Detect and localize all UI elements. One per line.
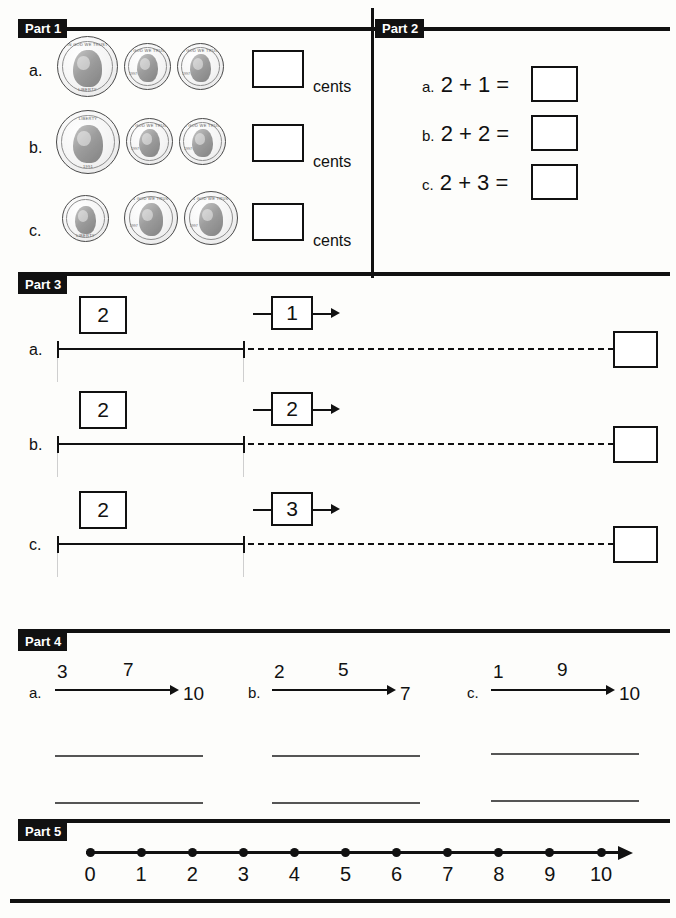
part3-item-a-answer-box[interactable] [613,331,658,368]
part3-item-c-start-box[interactable]: 2 [79,491,127,529]
part2-item-b-expression: b. 2 + 2 = [422,121,509,147]
part3-item-b-tick-mid [243,436,245,453]
divider-part1-part2 [371,8,374,278]
part4-item-b-letter: b. [248,684,261,701]
part4-item-c-answer-line-2[interactable] [491,800,639,802]
part1-item-b-unit-label: cents [313,153,351,171]
part1-item-c-letter: c. [29,222,41,240]
coin-year: 1997 [190,224,198,228]
rule-part3 [18,272,670,276]
part1-item-c-answer-box[interactable] [252,203,304,241]
part1-item-a-unit-label: cents [313,78,351,96]
part2-item-a-equation: 2 + 1 = [441,72,510,97]
coin-year: 1997 [131,147,139,151]
part4-item-b-change: 5 [338,659,349,681]
part5-number-line-arrowhead [618,846,633,860]
part4-item-c-start: 1 [493,661,504,683]
part4-item-a-change: 7 [123,659,134,681]
part2-item-b-answer-box[interactable] [531,115,578,151]
part5-dot [392,848,401,857]
part2-item-c-letter: c. [422,176,434,193]
part3-item-a-start-box[interactable]: 2 [79,296,127,334]
part5-dot [545,848,554,857]
part5-label: 3 [238,863,249,886]
part1-item-b-answer-box[interactable] [252,124,304,162]
part5-dot [597,848,606,857]
part3-item-b-connector-left [253,409,271,411]
part3-item-a-guide-start [57,358,58,382]
coin-legend-top: IN GOD WE TRUST [127,123,172,128]
quarter-coin: LIBERTY 1991 [56,110,120,174]
coin-legend-top: IN GOD WE TRUST [180,123,225,128]
part3-item-c-tick-mid [243,536,245,553]
penny-coin: IN GOD WE TRUST 1997 [177,43,224,90]
part3-item-a-solid-segment [57,348,244,350]
part4-item-a-answer-line-2[interactable] [55,802,203,804]
part5-dot [494,848,503,857]
coin-legend-top: IN GOD WE TRUST [58,42,117,47]
part4-item-c-arrow-line [491,689,607,691]
penny-coin: IN GOD WE TRUST 1997 [124,191,178,245]
part3-item-c-solid-segment [57,543,244,545]
part3-item-c-arrowhead [331,504,340,514]
part1-item-c-unit-label: cents [313,232,351,250]
coin-year: 1997 [182,72,190,76]
part3-item-a-dashed-segment [248,348,614,350]
part3-item-b-guide-start [57,453,58,477]
nickel-coin: IN GOD WE TRUST LIBERTY [57,36,118,97]
penny-coin: IN GOD WE TRUST 1997 [179,118,226,165]
part3-item-c-letter: c. [29,536,41,554]
part3-item-c-guide-start [57,553,58,577]
part3-item-a-jump-box[interactable]: 1 [271,296,313,330]
part2-item-c-expression: c. 2 + 3 = [422,170,508,196]
part4-item-c-change: 9 [557,659,568,681]
part4-item-b-answer-line-1[interactable] [272,755,420,757]
part4-item-a-answer-line-1[interactable] [55,755,203,757]
part4-item-b-end: 7 [400,683,411,705]
coin-legend-bottom: LIBERTY [58,87,117,92]
coin-legend-bottom: 1991 [57,164,119,169]
part2-item-a-letter: a. [422,78,435,95]
part4-item-b-start: 2 [274,661,285,683]
part2-item-a-answer-box[interactable] [531,66,578,102]
penny-coin: IN GOD WE TRUST 1997 [124,43,171,90]
part1-item-a-answer-box[interactable] [252,50,304,88]
dime-coin: LIBERTY [62,195,109,242]
part4-item-b-arrow-line [272,689,388,691]
part3-item-b-answer-box[interactable] [613,426,658,463]
part5-label: 0 [84,863,95,886]
rule-part5 [18,819,670,823]
coin-year: 1997 [130,224,138,228]
coin-legend-top: LIBERTY [57,116,119,121]
part4-item-c-answer-line-1[interactable] [491,753,639,755]
part5-dot [188,848,197,857]
part3-item-b-guide-mid [243,453,244,477]
coin-year: 1997 [184,147,192,151]
part3-item-b-dashed-segment [248,443,614,445]
coin-legend-top: IN GOD WE TRUST [125,196,177,201]
part3-item-b-arrowhead [331,404,340,414]
part4-item-b-answer-line-2[interactable] [272,802,420,804]
part3-item-c-answer-box[interactable] [613,526,658,563]
part-4-tab: Part 4 [18,632,67,651]
part1-item-a-letter: a. [29,62,42,80]
part5-label: 4 [289,863,300,886]
part5-label: 6 [391,863,402,886]
coin-year: 1997 [129,72,137,76]
part5-dot [137,848,146,857]
part3-item-b-jump-box[interactable]: 2 [271,392,313,426]
part-2-tab: Part 2 [375,19,424,38]
part3-item-b-start-box[interactable]: 2 [79,391,127,429]
part4-item-c-end: 10 [619,683,640,705]
part5-label: 7 [442,863,453,886]
part4-item-c-arrowhead [606,685,615,695]
part3-item-c-guide-mid [243,553,244,577]
part4-item-a-arrowhead [170,685,179,695]
coin-legend-top: IN GOD WE TRUST [185,196,237,201]
coin-legend-top: IN GOD WE TRUST [178,48,223,53]
part2-item-c-answer-box[interactable] [531,164,578,200]
coin-legend-top: IN GOD WE TRUST [125,48,170,53]
part5-label: 9 [544,863,555,886]
part3-item-c-jump-box[interactable]: 3 [271,492,313,526]
part3-item-c-dashed-segment [248,543,614,545]
